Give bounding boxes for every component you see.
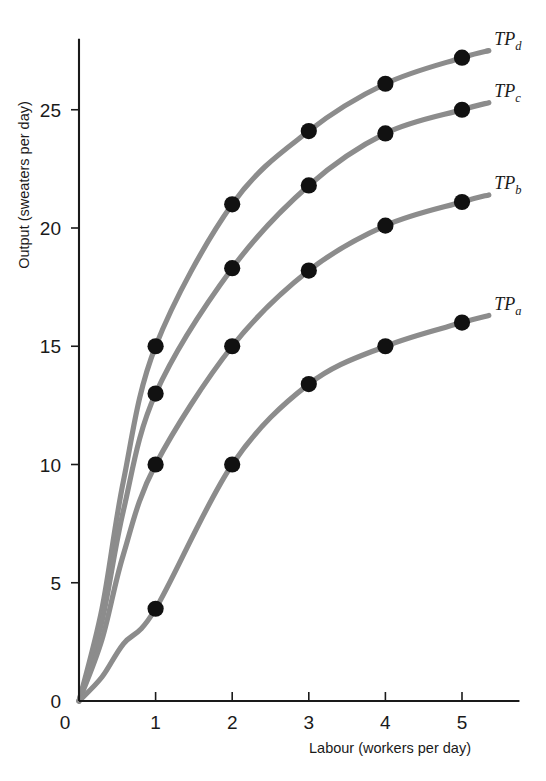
data-point[interactable] <box>148 338 164 354</box>
y-axis-tick-label: 5 <box>50 573 61 594</box>
data-point[interactable] <box>301 177 317 193</box>
y-axis-tick-label: 0 <box>50 691 61 712</box>
data-point[interactable] <box>224 456 240 472</box>
data-point[interactable] <box>148 601 164 617</box>
series-label-tpb: TPb <box>494 173 521 197</box>
series-label-tpd: TPd <box>494 29 522 53</box>
total-product-curves-chart: 0510152025012345 TPdTPcTPbTPa Output (sw… <box>0 0 546 781</box>
x-axis-tick-label: 1 <box>150 712 161 733</box>
y-axis-title: Output (sweaters per day) <box>16 101 32 269</box>
data-point[interactable] <box>377 76 393 92</box>
data-point[interactable] <box>148 456 164 472</box>
axes-layer <box>71 39 519 701</box>
x-axis-tick-label: 5 <box>457 712 468 733</box>
curves-layer <box>79 51 489 701</box>
x-axis-tick-label: 3 <box>304 712 315 733</box>
data-point[interactable] <box>301 376 317 392</box>
curve-tpa[interactable] <box>79 316 489 702</box>
data-point[interactable] <box>377 218 393 234</box>
x-axis-tick-label: 2 <box>227 712 238 733</box>
y-axis-tick-label: 10 <box>40 455 61 476</box>
data-point[interactable] <box>224 338 240 354</box>
x-axis-tick-label: 4 <box>380 712 391 733</box>
x-axis-title: Labour (workers per day) <box>309 740 471 756</box>
data-point[interactable] <box>377 338 393 354</box>
y-axis-tick-label: 20 <box>40 218 61 239</box>
curve-tpb[interactable] <box>79 195 489 701</box>
series-label-tpa: TPa <box>494 294 521 318</box>
data-point[interactable] <box>377 125 393 141</box>
data-point[interactable] <box>301 262 317 278</box>
series-labels-layer: TPdTPcTPbTPa <box>494 29 522 318</box>
data-point[interactable] <box>148 385 164 401</box>
y-axis-tick-label: 15 <box>40 336 61 357</box>
data-point[interactable] <box>301 123 317 139</box>
data-point[interactable] <box>454 50 470 66</box>
chart-container: 0510152025012345 TPdTPcTPbTPa Output (sw… <box>0 0 546 781</box>
data-point[interactable] <box>224 196 240 212</box>
axis-titles-layer: Output (sweaters per day)Labour (workers… <box>16 101 471 756</box>
data-point[interactable] <box>454 315 470 331</box>
x-axis-tick-label: 0 <box>60 712 71 733</box>
data-point[interactable] <box>454 102 470 118</box>
y-axis-tick-label: 25 <box>40 100 61 121</box>
series-label-tpc: TPc <box>494 81 521 105</box>
data-point[interactable] <box>454 194 470 210</box>
curve-tpd[interactable] <box>79 51 489 701</box>
data-point[interactable] <box>224 260 240 276</box>
